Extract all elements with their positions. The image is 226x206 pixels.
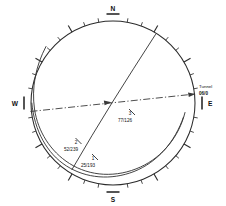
perimeter-tick-20 — [141, 22, 142, 26]
tunnel-annotation: Tunnel 06/0 — [199, 84, 212, 96]
perimeter-tick-250 — [32, 131, 36, 132]
primitive-circle — [31, 21, 195, 185]
perimeter-tick-280 — [28, 88, 32, 89]
perimeter-tick-300 — [35, 58, 42, 62]
plane-2-value: 52/239 — [64, 147, 78, 152]
stereonet-canvas: N E S W 1 25/193 2 52/239 3 77/126 Tunne… — [0, 0, 226, 206]
perimeter-tick-190 — [98, 184, 99, 188]
perimeter-tick-150 — [154, 174, 158, 181]
plane-2-id: 2 — [75, 140, 78, 145]
perimeter-tick-140 — [166, 166, 169, 169]
perimeter-tick-170 — [127, 184, 128, 188]
perimeter-tick-100 — [194, 117, 198, 118]
plane-3-value: 77/126 — [118, 118, 132, 123]
perimeter-tick-10 — [127, 18, 128, 22]
perimeter-tick-210 — [68, 174, 72, 181]
perimeter-tick-320 — [58, 37, 61, 40]
plane-1-value: 25/193 — [81, 163, 95, 168]
great-circle-plane-2 — [34, 47, 185, 175]
plane-1-id: 1 — [92, 156, 95, 161]
perimeter-tick-260 — [28, 117, 32, 118]
perimeter-tick-330 — [68, 25, 72, 32]
perimeter-tick-70 — [190, 74, 194, 75]
perimeter-tick-160 — [141, 180, 142, 184]
perimeter-tick-130 — [176, 156, 179, 159]
perimeter-tick-60 — [184, 58, 191, 62]
cardinal-label-north: N — [111, 5, 116, 12]
cardinal-label-west: W — [12, 100, 19, 107]
cardinal-label-south: S — [111, 196, 116, 203]
tunnel-label: Tunnel — [199, 84, 212, 89]
perimeter-tick-230 — [47, 156, 50, 159]
perimeter-tick-310 — [47, 48, 50, 51]
perimeter-tick-120 — [184, 144, 191, 148]
cardinal-markers: N E S W — [12, 5, 213, 203]
great-circle-group — [32, 35, 185, 178]
perimeter-tick-40 — [166, 37, 169, 40]
perimeter-tick-200 — [84, 180, 85, 184]
perimeter-tick-350 — [98, 18, 99, 22]
tunnel-value: 06/0 — [199, 91, 208, 96]
plane-annotations: 1 25/193 2 52/239 3 77/126 — [64, 111, 132, 168]
stereonet-diagram: N E S W 1 25/193 2 52/239 3 77/126 Tunne… — [0, 0, 226, 206]
perimeter-tick-340 — [84, 22, 85, 26]
perimeter-tick-50 — [176, 48, 179, 51]
perimeter-tick-220 — [58, 166, 61, 169]
tunnel-axis-line — [31, 94, 196, 112]
perimeter-ticks — [28, 18, 197, 187]
perimeter-tick-30 — [154, 25, 158, 32]
pole-marks — [76, 109, 136, 160]
plane-3-id: 3 — [129, 111, 132, 116]
perimeter-tick-240 — [35, 144, 42, 148]
great-circle-plane-1 — [32, 103, 184, 177]
cardinal-label-east: E — [208, 100, 213, 107]
perimeter-tick-110 — [190, 131, 194, 132]
great-circle-plane-3 — [72, 35, 156, 170]
perimeter-tick-80 — [194, 88, 198, 89]
